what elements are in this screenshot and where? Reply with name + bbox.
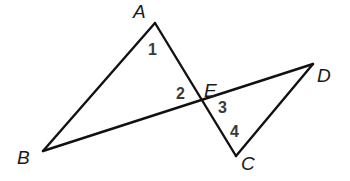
- segment-cd: [236, 64, 313, 156]
- vertex-label-e: E: [204, 80, 217, 101]
- angle-label-3: 3: [218, 99, 227, 116]
- angle-labels: 1 2 3 4: [148, 41, 239, 140]
- angle-label-4: 4: [230, 123, 239, 140]
- segment-bd: [43, 64, 313, 151]
- vertex-label-c: C: [241, 153, 255, 174]
- angle-label-2: 2: [176, 85, 185, 102]
- vertex-label-a: A: [132, 1, 146, 22]
- vertex-label-d: D: [317, 65, 331, 86]
- vertex-labels: A B C D E: [17, 1, 331, 174]
- vertex-label-b: B: [17, 147, 30, 168]
- angle-label-1: 1: [148, 41, 157, 58]
- geometry-diagram: A B C D E 1 2 3 4: [0, 0, 350, 181]
- segment-ac: [155, 23, 236, 156]
